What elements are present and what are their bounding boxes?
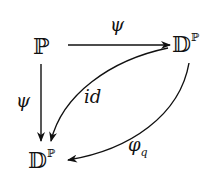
label-top-psi: ψ <box>110 16 124 34</box>
node-top-left-symbol: ℙ <box>33 34 50 59</box>
node-bottom-left-superscript: ℙ <box>47 147 55 160</box>
node-bottom-left: 𝔻ℙ <box>28 150 55 172</box>
node-top-right-superscript: ℙ <box>191 31 199 44</box>
node-top-right: 𝔻ℙ <box>172 34 199 56</box>
label-id: id <box>84 88 101 106</box>
label-phi-q: φq <box>128 136 148 158</box>
node-top-right-symbol: 𝔻 <box>172 32 191 57</box>
node-top-left: ℙ <box>33 36 50 58</box>
label-phi: φ <box>128 134 141 155</box>
arrow-id-curve <box>51 48 168 141</box>
label-phi-subscript: q <box>141 146 148 159</box>
label-left-psi: ψ <box>16 92 30 110</box>
node-bottom-left-symbol: 𝔻 <box>28 148 47 173</box>
